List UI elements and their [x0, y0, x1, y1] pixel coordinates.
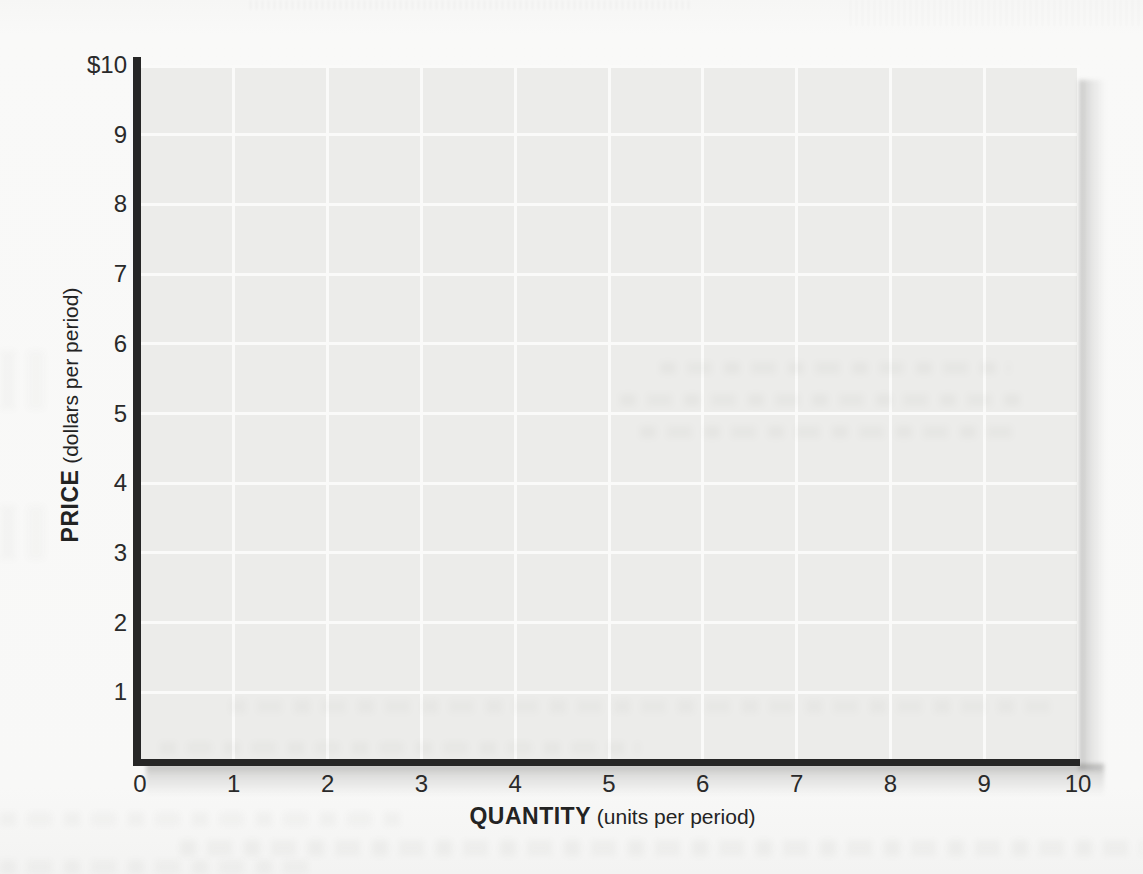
- x-tick-label: 2: [300, 770, 356, 798]
- gridline-horizontal: [140, 551, 1078, 554]
- scan-streaks-top-left: [250, 0, 690, 10]
- ghost-text-smudge: [230, 700, 1050, 713]
- gridline-horizontal: [140, 133, 1078, 136]
- y-axis-title: PRICE (dollars per period): [55, 195, 85, 635]
- plot-drop-shadow-right: [1079, 80, 1106, 770]
- gridline-horizontal: [140, 65, 1078, 68]
- x-tick-label: 7: [769, 770, 825, 798]
- x-tick-label: 1: [206, 770, 262, 798]
- gridline-horizontal: [140, 203, 1078, 206]
- figure-canvas: $10987654321 012345678910 PRICE (dollars…: [0, 0, 1143, 874]
- x-tick-label: 4: [487, 770, 543, 798]
- y-axis-title-main: PRICE: [57, 470, 83, 543]
- gridline-horizontal: [140, 273, 1078, 276]
- y-axis-title-units: (dollars per period): [59, 288, 82, 470]
- y-axis-line: [133, 57, 141, 766]
- x-axis-title-main: QUANTITY: [469, 803, 591, 829]
- ghost-text-smudge: [660, 362, 1010, 374]
- y-tick-label: 9: [31, 121, 127, 149]
- ghost-text-smudge: [160, 742, 640, 754]
- x-tick-label: 5: [581, 770, 637, 798]
- scan-streaks-top-right: [850, 0, 1143, 26]
- y-tick-label: 1: [31, 678, 127, 706]
- ghost-text-smudge: [0, 860, 310, 874]
- ghost-text-smudge: [180, 840, 1143, 856]
- gridline-horizontal: [140, 482, 1078, 485]
- gridline-horizontal: [140, 691, 1078, 694]
- gridline-horizontal: [140, 621, 1078, 624]
- x-tick-label: 8: [862, 770, 918, 798]
- x-tick-label: 10: [1050, 770, 1106, 798]
- x-axis-title: QUANTITY (units per period): [340, 801, 885, 831]
- x-tick-label: 6: [675, 770, 731, 798]
- gridline-horizontal: [140, 412, 1078, 415]
- x-tick-label: 9: [956, 770, 1012, 798]
- ghost-text-smudge: [640, 426, 1020, 438]
- x-axis-line: [133, 759, 1080, 766]
- gridline-horizontal: [140, 342, 1078, 345]
- ghost-text-smudge: [620, 394, 1020, 406]
- x-tick-label: 3: [393, 770, 449, 798]
- x-tick-label: 0: [112, 770, 168, 798]
- plot-area: [140, 65, 1078, 762]
- y-tick-label: $10: [31, 51, 127, 79]
- x-axis-title-units: (units per period): [591, 805, 756, 828]
